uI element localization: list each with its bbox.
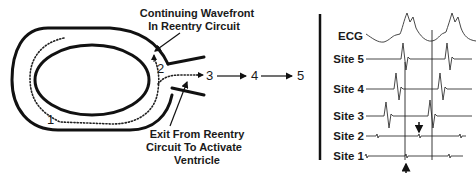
trace-label-site5: Site 5 [333,53,364,65]
trace-label-site1: Site 1 [333,150,364,162]
point-2-label: 2 [157,61,164,76]
site1-trace [365,154,463,158]
exit-label-line3: Ventricle [174,154,220,166]
continuing-wavefront-label-line1: Continuing Wavefront [140,7,255,19]
reentry-diagram: 1 2 3 4 5 Continuing Wavefront In Reentr… [0,0,476,178]
exit-label-line1: Exit From Reentry [150,128,246,140]
ecg-trace [366,13,476,42]
point-1-label: 1 [47,112,54,127]
continuing-wavefront-label-line2: In Reentry Circuit [148,20,240,32]
continuing-pointer [155,33,180,51]
site5-trace [366,43,472,70]
exit-label-line2: Circuit To Activate [146,141,242,153]
central-obstacle [35,45,149,115]
reentry-circuit: 1 2 3 4 5 Continuing Wavefront In Reentr… [12,7,304,166]
exit-channel-upper-wall [168,57,204,64]
site4-trace [366,73,472,100]
electrogram-panel: ECG Site 5 Site 4 Site 3 Site 2 Site 1 [320,13,476,173]
point-4-label: 4 [251,68,258,83]
exit-channel-lower-wall [172,88,204,95]
point-5-label: 5 [297,68,304,83]
site2-trace [366,134,466,138]
trace-label-site4: Site 4 [333,83,364,95]
trace-label-ecg: ECG [338,30,363,42]
exit-wavefront-path [158,75,198,84]
trace-label-site3: Site 3 [333,110,364,122]
trace-label-site2: Site 2 [333,130,364,142]
point-3-label: 3 [206,68,213,83]
